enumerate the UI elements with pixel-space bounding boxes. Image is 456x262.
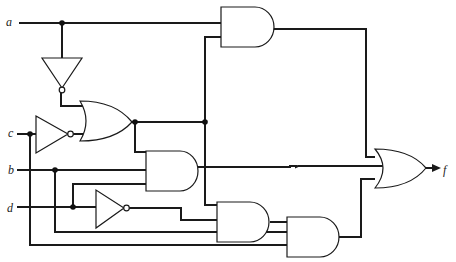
junction-dot [27,131,33,137]
junction-dot [52,167,58,173]
wire-or1-andtop [205,37,221,122]
or-1-shape [80,101,132,141]
junction-dot [132,119,138,125]
and-gate-bottom [287,217,339,257]
junction-dot [59,20,65,26]
and-gate-mid [146,151,198,191]
not-gate-d [96,190,129,228]
wire-nota-or1 [61,92,84,106]
logic-circuit-diagram: a c b d f [0,0,456,262]
or-gate-output [375,149,426,188]
and-gate-low [217,202,269,242]
not-d-triangle [96,190,124,228]
and-low-shape [217,202,269,242]
and-gate-top [221,7,274,47]
output-label-f: f [443,163,448,177]
input-label-c: c [8,126,14,140]
wire-andtop-orout [272,29,375,157]
and-mid-shape [146,151,198,191]
and-top-shape [221,7,274,47]
input-label-b: b [8,163,14,177]
not-d-bubble [124,205,130,211]
not-c-bubble [68,131,74,137]
or-gate-1 [80,101,132,141]
wire-or1-andlow [205,122,217,205]
junction-dot [202,119,208,125]
and-bottom-shape [287,217,339,257]
or-out-shape [375,149,426,188]
not-c-triangle [36,116,68,153]
wire-andmid-orout [198,166,384,167]
not-gate-a [42,58,82,93]
not-a-bubble [59,87,65,93]
wire-notd-andlow [128,208,217,220]
arrow-icon [432,164,441,172]
junction-dot [70,204,76,210]
input-label-d: d [7,201,14,215]
not-gate-c [36,116,73,153]
not-a-triangle [42,58,82,88]
wire-or1-andmid [135,122,146,152]
input-label-a: a [6,15,12,29]
wire-andbottom-orout [338,179,375,237]
